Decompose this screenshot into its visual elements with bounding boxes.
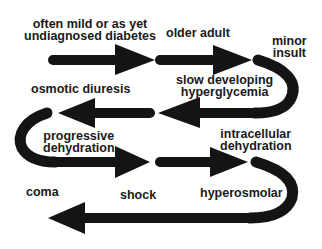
label-line: insult (272, 47, 307, 59)
label-undiagnosed-diabetes: often mild or as yet undiagnosed diabete… (24, 18, 156, 42)
label-coma: coma (26, 186, 59, 198)
label-line: hyperosmolar (200, 187, 283, 199)
label-osmotic-diuresis: osmotic diuresis (31, 83, 130, 95)
label-line: shock (120, 189, 156, 201)
label-intracellular-dehydration: intracellular dehydration (220, 128, 292, 152)
arrow-left-1 (158, 97, 255, 128)
label-older-adult: older adult (166, 27, 230, 39)
label-shock: shock (120, 189, 156, 201)
label-line: osmotic diuresis (31, 83, 130, 95)
arrow-left-2 (58, 98, 150, 128)
arrow-right-2 (160, 45, 252, 75)
label-progressive-dehydration: progressive dehydration (43, 130, 115, 154)
label-hyperosmolar: hyperosmolar (200, 187, 283, 199)
label-minor-insult: minor insult (272, 35, 307, 59)
arrow-right-1 (53, 44, 155, 75)
label-line: undiagnosed diabetes (24, 30, 156, 42)
label-line: coma (26, 186, 59, 198)
label-line: hyperglycemia (176, 86, 273, 98)
label-slow-developing-hyperglycemia: slow developing hyperglycemia (176, 74, 273, 98)
label-line: dehydration (43, 142, 115, 154)
arrow-left-3 (48, 202, 252, 234)
label-line: dehydration (220, 140, 292, 152)
label-line: older adult (166, 27, 230, 39)
